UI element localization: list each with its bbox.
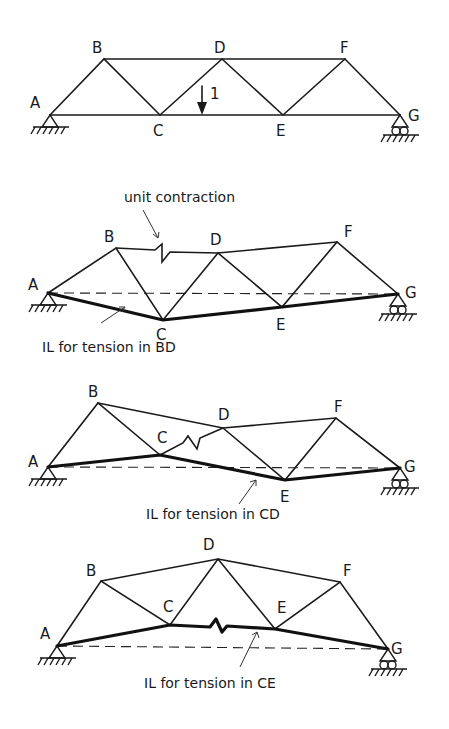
- member-diagonals: [50, 59, 400, 115]
- node-label-g: G: [408, 107, 420, 125]
- node-label-e: E: [276, 122, 285, 140]
- node-label-b: B: [88, 383, 98, 401]
- pin-support-icon: [38, 646, 76, 665]
- node-label-d: D: [210, 231, 222, 249]
- truss-original: 1 A B C D E F G: [30, 39, 420, 142]
- node-label-f: F: [344, 223, 353, 241]
- influence-line-ce: [57, 619, 388, 649]
- node-label-e: E: [276, 316, 285, 334]
- baseline-dashed: [48, 293, 398, 294]
- node-label-c: C: [163, 598, 173, 616]
- node-label-e: E: [277, 599, 286, 617]
- annotation-arrow: [143, 210, 159, 238]
- unit-load-arrow: [197, 86, 207, 115]
- node-label-c: C: [157, 429, 167, 447]
- caption-il-ce: IL for tension in CE: [144, 675, 276, 691]
- node-label-b: B: [104, 228, 114, 246]
- node-label-a: A: [30, 94, 41, 112]
- truss-il-cd: IL for tension in CD A B C D E F G: [28, 383, 419, 522]
- node-label-d: D: [218, 406, 230, 424]
- unit-load-label: 1: [210, 85, 220, 103]
- node-label-g: G: [405, 284, 417, 302]
- member-top-chord: [98, 403, 336, 428]
- node-label-a: A: [28, 453, 39, 471]
- truss-il-bd: unit contraction IL for tension in BD A …: [28, 189, 417, 355]
- truss-il-ce: IL for tension in CE A B C D E F G: [38, 536, 407, 691]
- node-label-e: E: [280, 488, 289, 506]
- truss-influence-line-diagram: 1 A B C D E F G unit contract: [0, 0, 449, 729]
- caption-arrow: [239, 480, 256, 504]
- node-label-b: B: [92, 39, 102, 57]
- member-top-chord-contracted: [116, 242, 337, 262]
- node-label-d: D: [203, 536, 215, 554]
- unit-contraction-label: unit contraction: [124, 189, 235, 205]
- node-label-c: C: [153, 122, 163, 140]
- influence-line-bd: [48, 293, 398, 320]
- member-cd-contracted: [160, 428, 223, 455]
- node-label-d: D: [214, 39, 226, 57]
- node-label-f: F: [340, 39, 349, 57]
- node-label-g: G: [404, 458, 416, 476]
- caption-il-cd: IL for tension in CD: [146, 506, 280, 522]
- pin-support-icon: [31, 115, 69, 134]
- node-label-a: A: [40, 625, 51, 643]
- node-label-f: F: [343, 562, 352, 580]
- baseline-dashed: [57, 646, 388, 649]
- node-label-c: C: [156, 326, 166, 344]
- member-diagonals: [48, 242, 398, 320]
- caption-arrow: [240, 632, 259, 667]
- node-label-a: A: [28, 276, 39, 294]
- node-label-b: B: [86, 562, 96, 580]
- node-label-f: F: [334, 398, 343, 416]
